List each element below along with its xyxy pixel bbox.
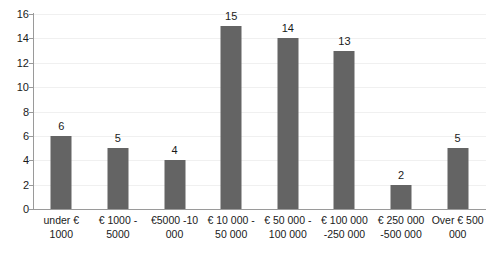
bar-slot: 5 [90,14,147,209]
y-axis-tick-mark [29,160,33,161]
category-label-line: 1000 [33,227,90,241]
y-axis-tick-mark [29,63,33,64]
y-axis-tick-label: 0 [3,204,29,215]
category-label-line: under € [33,213,90,227]
y-axis-tick-label: 10 [3,82,29,93]
category-label-line: €5000 -10 [146,213,203,227]
y-axis-tick-label: 16 [3,9,29,20]
y-axis-tick-label: 12 [3,58,29,69]
bar-value-label: 14 [282,23,294,34]
x-axis-category-label: under €1000 [33,213,90,241]
category-label-line: € 10 000 - [203,213,260,227]
bar-value-label: 6 [58,121,64,132]
bar-slot: 5 [429,14,486,209]
y-axis-tick-mark [29,209,33,210]
y-axis-tick-label: 14 [3,33,29,44]
category-label-line: 50 000 [203,227,260,241]
y-axis-tick-mark [29,112,33,113]
category-label-line: Over € 500 [429,213,486,227]
category-label-line: € 250 000 [373,213,430,227]
bar[interactable] [391,185,412,209]
y-axis-tick-label: 6 [3,131,29,142]
bar-slot: 13 [316,14,373,209]
y-axis-tick-mark [29,136,33,137]
category-label-line: 000 [429,227,486,241]
bar[interactable] [334,51,355,209]
category-label-line: € 50 000 - [260,213,317,227]
x-axis-category-label: Over € 500000 [429,213,486,241]
x-axis-line [33,209,486,210]
x-axis-category-label: € 100 000-250 000 [316,213,373,241]
y-axis-tick-mark [29,14,33,15]
bar-value-label: 13 [338,36,350,47]
bar-value-label: 5 [115,133,121,144]
category-label-line: 100 000 [260,227,317,241]
y-axis-tick-label: 4 [3,155,29,166]
bar[interactable] [51,136,72,209]
x-axis-category-label: € 250 000-500 000 [373,213,430,241]
bar-slot: 4 [146,14,203,209]
y-axis-tick-mark [29,185,33,186]
category-label-line: -500 000 [373,227,430,241]
x-axis-category-label: € 50 000 -100 000 [260,213,317,241]
bar-chart: 1614121086420 65415141325 under €1000€ 1… [0,0,486,257]
category-label-line: € 1000 - [90,213,147,227]
y-axis-tick-mark [29,87,33,88]
y-axis-tick-label: 8 [3,107,29,118]
bar[interactable] [107,148,128,209]
y-axis-tick-mark [29,38,33,39]
category-label-line: € 100 000 [316,213,373,227]
bar[interactable] [164,160,185,209]
bar[interactable] [221,26,242,209]
category-label-line: 5000 [90,227,147,241]
y-axis-tick-labels: 1614121086420 [0,0,29,257]
bar-slot: 15 [203,14,260,209]
bar-slot: 6 [33,14,90,209]
x-axis-category-label: € 10 000 -50 000 [203,213,260,241]
y-axis-tick-label: 2 [3,180,29,191]
bar-value-label: 4 [171,145,177,156]
bar-value-label: 2 [398,170,404,181]
x-axis-category-label: € 1000 -5000 [90,213,147,241]
bar[interactable] [277,38,298,209]
bar-value-label: 15 [225,11,237,22]
bar-slot: 2 [373,14,430,209]
bar-slot: 14 [260,14,317,209]
category-label-line: -250 000 [316,227,373,241]
bar-series: 65415141325 [33,14,486,209]
x-axis-category-labels: under €1000€ 1000 -5000€5000 -10000€ 10 … [33,213,486,257]
bar-value-label: 5 [455,133,461,144]
x-axis-category-label: €5000 -10000 [146,213,203,241]
bar[interactable] [447,148,468,209]
category-label-line: 000 [146,227,203,241]
